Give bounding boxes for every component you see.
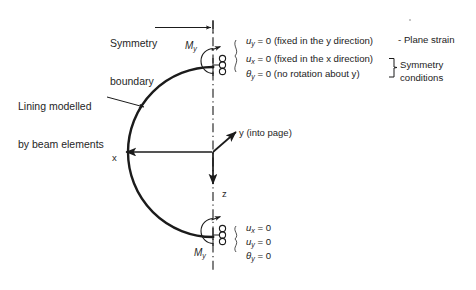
support-roller-bottom-1 bbox=[219, 225, 225, 231]
bc-bottom-line-thetay: θy = 0 bbox=[246, 249, 271, 263]
figure-canvas: Symmetry boundary Lining modelled by bea… bbox=[0, 0, 476, 290]
axis-y-arrow bbox=[213, 132, 236, 152]
plane-strain-label: Plane strain bbox=[404, 34, 455, 45]
node-dot-bottom bbox=[212, 236, 215, 239]
support-roller-bottom-3 bbox=[219, 238, 225, 244]
scan-speck bbox=[409, 19, 411, 21]
symmetry-boundary-line2: boundary bbox=[110, 75, 157, 88]
top-boundary-conditions: uy = 0 (fixed in the y direction) ux = 0… bbox=[246, 33, 373, 81]
symmetry-boundary-label: Symmetry boundary bbox=[110, 11, 157, 113]
moment-label-top-subscript: y bbox=[193, 44, 197, 53]
symmetry-boundary-line1: Symmetry bbox=[110, 37, 157, 50]
symmetry-conditions-group: Symmetry conditions bbox=[400, 58, 443, 84]
bc-bottom-line-ux: ux = 0 bbox=[246, 221, 271, 235]
node-dot-top bbox=[212, 66, 215, 69]
bc-thetay-value: = 0 bbox=[255, 68, 274, 79]
bc-bottom-thetay-value: = 0 bbox=[255, 250, 271, 261]
bc-uy-note: (fixed in the y direction) bbox=[274, 35, 373, 46]
symmetry-conditions-line1: Symmetry bbox=[400, 58, 443, 71]
moment-label-top: My bbox=[185, 40, 197, 53]
plane-strain-group: - Plane strain bbox=[398, 33, 455, 46]
symmetry-conditions-line2: conditions bbox=[400, 71, 443, 84]
axis-z-label: z bbox=[222, 188, 227, 200]
moment-arc-bottom bbox=[201, 219, 214, 244]
bottom-support-node bbox=[201, 217, 226, 247]
bc-bottom-line-uy: uy = 0 bbox=[246, 235, 271, 249]
bc-bottom-ux-value: = 0 bbox=[255, 222, 271, 233]
top-support-node bbox=[201, 47, 226, 77]
brace-top-conditions bbox=[235, 40, 237, 72]
bc-ux-value: = 0 bbox=[255, 53, 274, 64]
axis-y-label: y (into page) bbox=[239, 127, 292, 139]
coordinate-axes bbox=[126, 132, 236, 184]
axis-x-label: x bbox=[112, 152, 117, 164]
bc-thetay-note: (no rotation about y) bbox=[274, 68, 360, 79]
lining-label-line1: Lining modelled bbox=[18, 100, 104, 113]
bc-ux-note: (fixed in the x direction) bbox=[274, 53, 373, 64]
plane-strain-dash: - bbox=[398, 34, 401, 45]
brace-bottom-conditions bbox=[235, 226, 237, 252]
support-roller-top-1 bbox=[219, 55, 225, 61]
bc-line-uy: uy = 0 (fixed in the y direction) bbox=[246, 33, 373, 48]
support-roller-top-2 bbox=[219, 62, 225, 68]
bc-bottom-uy-value: = 0 bbox=[255, 236, 271, 247]
support-roller-top-3 bbox=[219, 68, 225, 74]
bc-line-ux: ux = 0 (fixed in the x direction) bbox=[246, 51, 373, 66]
moment-label-bottom-subscript: y bbox=[202, 251, 206, 260]
bc-line-thetay: θy = 0 (no rotation about y) bbox=[246, 66, 373, 81]
moment-label-bottom: My bbox=[194, 247, 206, 260]
lining-label-line2: by beam elements bbox=[18, 138, 104, 151]
bracket-symmetry-conditions bbox=[389, 59, 397, 78]
support-roller-bottom-2 bbox=[219, 232, 225, 238]
moment-arc-top bbox=[201, 48, 214, 73]
lining-label: Lining modelled by beam elements bbox=[18, 74, 104, 176]
bottom-boundary-conditions: ux = 0 uy = 0 θy = 0 bbox=[246, 221, 271, 263]
bc-uy-value: = 0 bbox=[255, 35, 274, 46]
